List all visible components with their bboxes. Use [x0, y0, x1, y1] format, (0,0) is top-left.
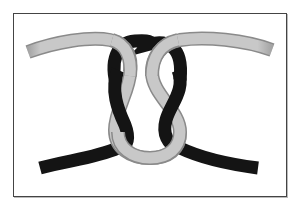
knot-diagram [0, 0, 300, 209]
dark-rope-left-tail [40, 148, 118, 168]
dark-rope-right-tail [180, 148, 258, 168]
